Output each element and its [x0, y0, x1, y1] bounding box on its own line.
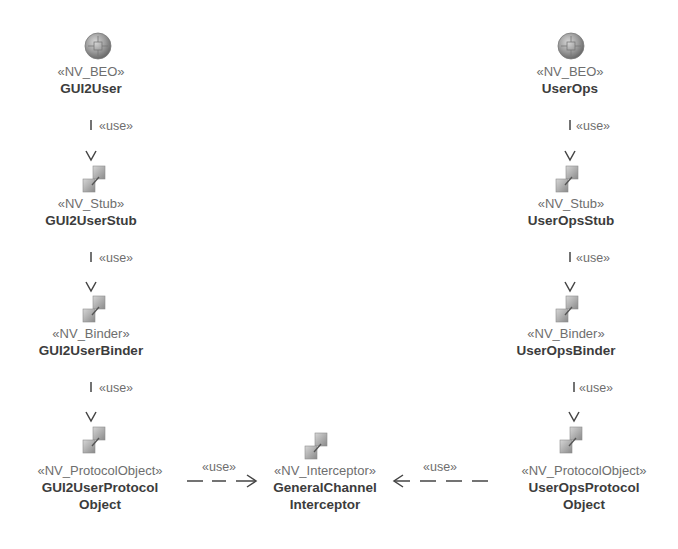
stereotype-label: «NV_Binder» — [39, 326, 143, 342]
stereotype-label: «NV_ProtocolObject» — [37, 463, 162, 479]
node-name: GUI2User — [57, 80, 124, 97]
node-name-line2: Object — [37, 496, 162, 513]
node-name-line2: Interceptor — [273, 496, 377, 513]
node-name: GeneralChannel — [273, 479, 377, 496]
use-label: «use» — [99, 119, 133, 133]
component-icon — [83, 427, 105, 453]
use-label: «use» — [99, 381, 133, 395]
stereotype-label: «NV_Stub» — [528, 196, 614, 212]
node-userops[interactable]: «NV_BEO» UserOps — [536, 64, 603, 97]
node-name: UserOps — [536, 80, 603, 97]
globe-icon — [558, 33, 584, 59]
use-label: «use» — [423, 460, 457, 474]
stereotype-label: «NV_Binder» — [516, 326, 615, 342]
component-icon — [83, 296, 105, 322]
node-useropsbinder[interactable]: «NV_Binder» UserOpsBinder — [516, 326, 615, 359]
use-label: «use» — [576, 251, 610, 265]
component-icon — [83, 166, 105, 192]
component-icon — [556, 296, 578, 322]
stereotype-label: «NV_Interceptor» — [273, 463, 377, 479]
node-name: UserOpsProtocol — [521, 479, 646, 496]
use-label: «use» — [202, 460, 236, 474]
node-gui2user[interactable]: «NV_BEO» GUI2User — [57, 64, 124, 97]
node-name: GUI2UserStub — [45, 212, 137, 229]
node-name: GUI2UserBinder — [39, 342, 143, 359]
stereotype-label: «NV_Stub» — [45, 196, 137, 212]
node-name: UserOpsBinder — [516, 342, 615, 359]
node-useropsstub[interactable]: «NV_Stub» UserOpsStub — [528, 196, 614, 229]
node-gui2userprotocolobject[interactable]: «NV_ProtocolObject» GUI2UserProtocol Obj… — [37, 463, 162, 513]
node-name: GUI2UserProtocol — [37, 479, 162, 496]
stereotype-label: «NV_BEO» — [536, 64, 603, 80]
node-name-line2: Object — [521, 496, 646, 513]
use-label: «use» — [576, 119, 610, 133]
node-useropsprotocolobject[interactable]: «NV_ProtocolObject» UserOpsProtocol Obje… — [521, 463, 646, 513]
use-label: «use» — [99, 251, 133, 265]
stereotype-label: «NV_ProtocolObject» — [521, 463, 646, 479]
component-icon — [305, 433, 327, 459]
node-generalchannelinterceptor[interactable]: «NV_Interceptor» GeneralChannel Intercep… — [273, 463, 377, 513]
stereotype-label: «NV_BEO» — [57, 64, 124, 80]
use-label: «use» — [579, 381, 613, 395]
component-icon — [556, 166, 578, 192]
globe-icon — [85, 33, 111, 59]
node-gui2userstub[interactable]: «NV_Stub» GUI2UserStub — [45, 196, 137, 229]
node-gui2userbinder[interactable]: «NV_Binder» GUI2UserBinder — [39, 326, 143, 359]
component-icon — [560, 427, 582, 453]
node-name: UserOpsStub — [528, 212, 614, 229]
